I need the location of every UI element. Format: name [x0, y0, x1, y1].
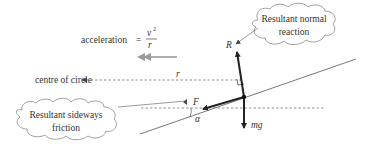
callout-line1: Resultant sideways	[29, 110, 102, 120]
normal-reaction-label: R	[225, 40, 232, 50]
angle-arc	[190, 108, 191, 117]
normal-reaction-arrow	[237, 52, 244, 97]
acceleration-label: acceleration	[81, 35, 127, 45]
angle-alpha-label: α	[195, 114, 201, 124]
velocity-symbol: v	[147, 28, 152, 38]
normal-reaction-callout: Resultant normal reaction	[236, 3, 335, 44]
slope-pointer-arrowhead-icon	[183, 99, 187, 105]
banked-road-surface	[140, 59, 356, 134]
velocity-power: 2	[153, 26, 156, 32]
callout-line1: Resultant normal	[261, 14, 327, 24]
acceleration-formula: acceleration = v 2 r	[81, 26, 157, 50]
callout-pointer	[236, 28, 258, 44]
callout-pointer	[118, 101, 186, 107]
friction-force-arrow	[203, 97, 244, 109]
radius-symbol-denominator: r	[148, 40, 152, 50]
weight-label: mg	[251, 120, 263, 130]
acceleration-arrow-icon	[137, 53, 177, 61]
banked-curve-force-diagram: acceleration = v 2 r centre of circle r …	[0, 0, 366, 149]
friction-force-label: F	[192, 97, 199, 107]
equals-sign: =	[136, 35, 141, 45]
sideways-friction-callout: Resultant sideways friction	[16, 98, 186, 140]
radius-label: r	[176, 69, 180, 79]
contact-point	[242, 95, 246, 99]
callout-line2: friction	[52, 123, 80, 133]
callout-line2: reaction	[279, 27, 310, 37]
